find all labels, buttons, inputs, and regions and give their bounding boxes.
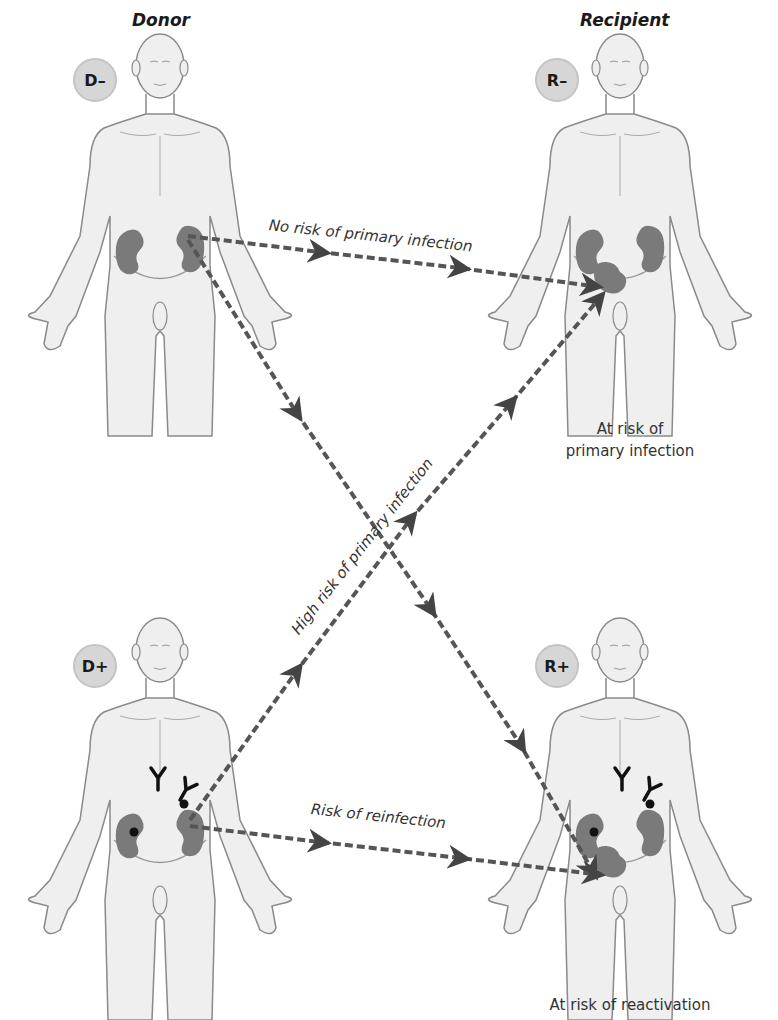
recipient-title: Recipient [580, 10, 669, 30]
badge-donor-positive: D+ [73, 644, 117, 688]
badge-recipient-negative: R– [535, 58, 579, 102]
arrow-dneg-to-rpos [188, 240, 592, 870]
figure-recipient-positive [489, 618, 752, 1020]
transfer-arrows [188, 236, 598, 874]
caption-recipient-positive: At risk of reactivation [520, 994, 740, 1016]
transplant-infection-risk-diagram: Donor Recipient D– R– D+ R+ No risk of p… [0, 0, 778, 1020]
caption-recipient-negative: At risk of primary infection [540, 418, 720, 462]
caption-line-1: At risk of [540, 418, 720, 440]
figure-donor-negative [29, 34, 292, 436]
arrow-dpos-to-rneg [190, 300, 598, 820]
donor-title: Donor [132, 10, 190, 30]
figure-donor-positive [29, 618, 292, 1020]
badge-recipient-positive: R+ [535, 644, 579, 688]
caption-line-2: primary infection [540, 440, 720, 462]
badge-donor-negative: D– [73, 58, 117, 102]
figure-recipient-negative [489, 34, 752, 436]
